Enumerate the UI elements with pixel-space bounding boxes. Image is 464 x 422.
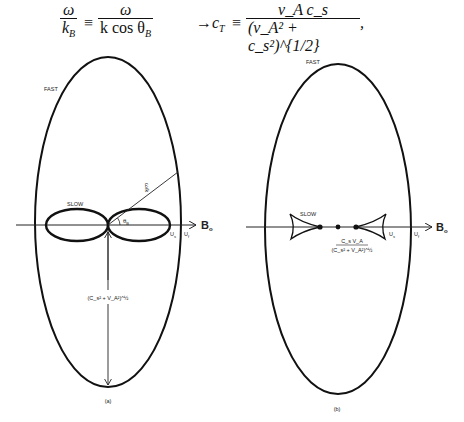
caption-b: (b) <box>334 406 341 412</box>
uf-sub-b: f <box>418 234 420 239</box>
us-sub-b: s <box>393 234 395 239</box>
figure-b: FAST SLOW Us Uf Bo C_s V_A (C_s² + V_A²)… <box>246 59 448 412</box>
figure-a: FAST SLOW θB ω/k Us Uf Bo (C_s² + V_A²)^… <box>16 57 213 404</box>
b0-label-b: Bo <box>436 221 448 234</box>
cusp-point-left <box>317 224 322 229</box>
perp-speed-label: (C_s² + V_A²)^½ <box>88 295 129 301</box>
slow-label-a: SLOW <box>67 201 84 207</box>
b0-label-a: Bo <box>201 219 213 232</box>
b-letter: B <box>201 219 209 231</box>
uf-label-b: Uf <box>414 231 420 239</box>
uf-sub: f <box>188 234 190 239</box>
theta-sub: B <box>126 221 129 226</box>
origin-point <box>336 225 341 230</box>
phase-speed-label: ω/k <box>144 183 150 193</box>
us-label-a: Us <box>170 231 176 239</box>
cusp-speed-numerator: C_s V_A <box>341 238 363 244</box>
b-sub-b: o <box>444 228 448 234</box>
uf-label-a: Uf <box>184 231 190 239</box>
fast-label-b: FAST <box>306 59 320 65</box>
angle-arc <box>118 218 120 225</box>
b-letter-b: B <box>436 221 444 233</box>
us-label-b: Us <box>389 231 395 239</box>
slow-label-b: SLOW <box>300 211 317 217</box>
friedrichs-diagrams: FAST SLOW θB ω/k Us Uf Bo (C_s² + V_A²)^… <box>0 0 464 422</box>
caption-a: (a) <box>105 398 112 404</box>
fast-label-a: FAST <box>44 86 58 92</box>
cusp-speed-denominator: (C_s² + V_A²)^½ <box>332 247 373 253</box>
us-sub: s <box>174 234 176 239</box>
b-sub: o <box>209 226 213 232</box>
cusp-point-right <box>353 224 358 229</box>
